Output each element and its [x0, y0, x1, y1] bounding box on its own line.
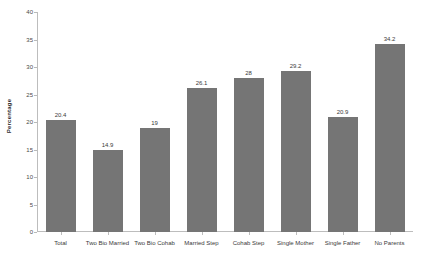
bar-value-label: 19	[151, 120, 158, 126]
bar[interactable]	[93, 150, 123, 232]
bar-value-label: 28	[245, 70, 252, 76]
x-axis-tick-mark	[249, 232, 250, 235]
bar[interactable]	[187, 88, 217, 232]
y-axis-tick-label: 30	[15, 64, 33, 70]
x-axis-tick-mark	[108, 232, 109, 235]
x-axis-tick-mark	[343, 232, 344, 235]
bar-value-label: 14.9	[102, 142, 114, 148]
y-axis-tick-mark	[34, 232, 37, 233]
x-axis-tick-label: Single Mother	[272, 240, 319, 246]
bar-value-label: 26.1	[196, 80, 208, 86]
x-axis-tick-mark	[61, 232, 62, 235]
y-axis-title: Percentage	[2, 0, 16, 232]
bars-layer: 20.414.91926.12829.220.934.2	[37, 12, 413, 232]
y-axis-tick-label: 35	[15, 37, 33, 43]
bar-value-label: 20.4	[55, 112, 67, 118]
x-axis-tick-label: Married Step	[178, 240, 225, 246]
x-axis-tick-mark	[202, 232, 203, 235]
bar-group[interactable]: 29.2	[272, 12, 319, 232]
x-axis-tick-label: Two Bio Cohab	[131, 240, 178, 246]
bar[interactable]	[46, 120, 76, 232]
bar-group[interactable]: 20.9	[319, 12, 366, 232]
bar-group[interactable]: 20.4	[37, 12, 84, 232]
x-axis-tick-label: Total	[37, 240, 84, 246]
bar-group[interactable]: 19	[131, 12, 178, 232]
x-axis-tick-label: Two Bio Married	[84, 240, 131, 246]
x-axis-tick-label: Cohab Step	[225, 240, 272, 246]
plot-area: 0510152025303540 20.414.91926.12829.220.…	[37, 12, 413, 232]
x-axis-tick-label: No Parents	[366, 240, 413, 246]
x-axis-tick-mark	[296, 232, 297, 235]
y-axis-tick-label: 0	[15, 229, 33, 235]
x-axis-tick-label: Single Father	[319, 240, 366, 246]
x-axis-labels: TotalTwo Bio MarriedTwo Bio CohabMarried…	[37, 240, 413, 246]
bar-group[interactable]: 26.1	[178, 12, 225, 232]
y-axis-tick-label: 5	[15, 202, 33, 208]
bar-value-label: 29.2	[290, 63, 302, 69]
bar[interactable]	[281, 71, 311, 232]
y-axis-tick-label: 20	[15, 119, 33, 125]
bar-chart: Percentage 0510152025303540 20.414.91926…	[0, 0, 421, 265]
bar-group[interactable]: 28	[225, 12, 272, 232]
bar[interactable]	[140, 128, 170, 233]
bar-group[interactable]: 34.2	[366, 12, 413, 232]
y-axis-tick-label: 40	[15, 9, 33, 15]
y-axis-tick-label: 25	[15, 92, 33, 98]
y-axis-title-label: Percentage	[6, 99, 12, 133]
bar[interactable]	[328, 117, 358, 232]
bar[interactable]	[234, 78, 264, 232]
bar[interactable]	[375, 44, 405, 232]
bar-value-label: 34.2	[384, 36, 396, 42]
bar-group[interactable]: 14.9	[84, 12, 131, 232]
x-axis-tick-mark	[390, 232, 391, 235]
bar-value-label: 20.9	[337, 109, 349, 115]
x-axis-tick-mark	[155, 232, 156, 235]
y-axis-tick-label: 10	[15, 174, 33, 180]
y-axis-tick-label: 15	[15, 147, 33, 153]
